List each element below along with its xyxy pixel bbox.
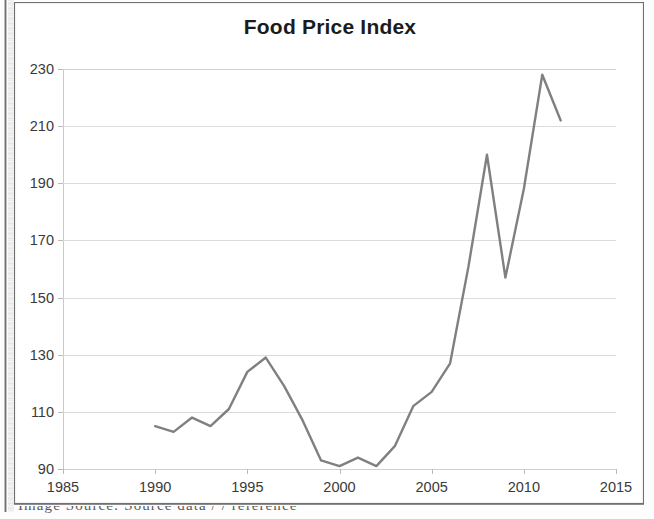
x-axis-tick-label: 2015 bbox=[600, 479, 632, 495]
x-axis-tick-label: 2005 bbox=[416, 479, 448, 495]
x-axis-tick-label: 1985 bbox=[47, 479, 79, 495]
series-line-food-price-index bbox=[155, 75, 561, 466]
y-axis-tick-label: 150 bbox=[30, 290, 54, 306]
scanned-page: Food Price Index 90110130150170190210230… bbox=[0, 0, 654, 519]
y-axis-tick-label: 190 bbox=[30, 175, 54, 191]
x-tick-1995 bbox=[247, 469, 248, 474]
y-axis-tick-label: 130 bbox=[30, 347, 54, 363]
y-axis-tick-label: 170 bbox=[30, 232, 54, 248]
cut-off-caption-text: Image Source: Source data / / reference bbox=[18, 506, 338, 514]
chart-frame: Food Price Index 90110130150170190210230… bbox=[14, 2, 644, 504]
x-tick-1985 bbox=[63, 469, 64, 474]
x-tick-2015 bbox=[616, 469, 617, 474]
page-bottom-rule bbox=[14, 504, 644, 505]
scan-edge-artifact bbox=[4, 0, 7, 512]
x-tick-2010 bbox=[524, 469, 525, 474]
x-axis-tick-label: 1990 bbox=[139, 479, 171, 495]
x-tick-2005 bbox=[432, 469, 433, 474]
chart-title: Food Price Index bbox=[15, 15, 645, 39]
y-axis-tick-label: 230 bbox=[30, 61, 54, 77]
plot-area: 90110130150170190210230 1985199019952000… bbox=[63, 69, 616, 469]
data-series-layer bbox=[63, 69, 616, 469]
y-axis-tick-label: 90 bbox=[38, 461, 54, 477]
x-tick-2000 bbox=[340, 469, 341, 474]
y-axis-tick-label: 210 bbox=[30, 118, 54, 134]
y-axis-tick-label: 110 bbox=[31, 404, 54, 420]
x-axis-tick-label: 2010 bbox=[508, 479, 540, 495]
x-axis-tick-label: 1995 bbox=[231, 479, 263, 495]
x-axis-tick-label: 2000 bbox=[323, 479, 355, 495]
cut-off-caption: Image Source: Source data / / reference bbox=[18, 506, 338, 519]
x-tick-1990 bbox=[155, 469, 156, 474]
